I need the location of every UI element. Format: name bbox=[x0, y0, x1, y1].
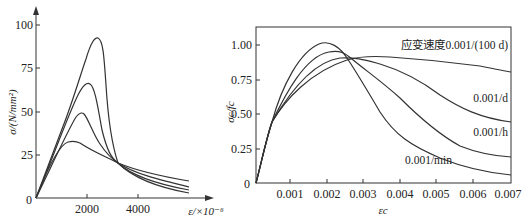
annotation-rate-100d: 应变速度0.001/(100 d) bbox=[401, 38, 508, 52]
right-x-tick: 0.001 bbox=[277, 187, 304, 201]
right-x-tick: 0.007 bbox=[495, 187, 522, 201]
right-x-tick: 0.005 bbox=[423, 187, 450, 201]
left-y-tick: 0 bbox=[26, 193, 32, 207]
annotation-rate-min: 0.001/min bbox=[405, 154, 452, 166]
annotation-rate-d: 0.001/d bbox=[473, 92, 508, 104]
left-x-axis-arrow-icon bbox=[205, 195, 214, 201]
right-x-tick: 0.002 bbox=[314, 187, 341, 201]
right-y-tick: 0.25 bbox=[231, 142, 252, 156]
right-y-axis-label: σc/fc bbox=[224, 101, 236, 122]
right-y-tick: 0 bbox=[244, 177, 250, 191]
left-y-axis-arrow-icon bbox=[33, 6, 39, 15]
left-y-tick: 100 bbox=[15, 18, 33, 32]
right-x-tick: 0.006 bbox=[460, 187, 487, 201]
right-y-tick: 0.75 bbox=[231, 73, 252, 87]
left-x-tick: 2000 bbox=[75, 202, 99, 216]
left-curve-4 bbox=[36, 141, 189, 198]
left-curve-1 bbox=[36, 38, 189, 198]
right-curve-rate-d bbox=[256, 58, 511, 183]
left-y-tick: 75 bbox=[21, 61, 33, 75]
left-x-axis-label: ε/×10⁻⁶ bbox=[188, 205, 224, 217]
right-x-tick: 0.003 bbox=[350, 187, 377, 201]
annotation-rate-h: 0.001/h bbox=[473, 126, 508, 138]
left-chart: 100 75 50 25 0 2000 4000 ε/×10⁻⁶ σ/(N/mm… bbox=[6, 6, 224, 217]
left-y-tick: 25 bbox=[21, 148, 33, 162]
left-y-tick: 50 bbox=[21, 105, 33, 119]
right-y-tick: 1.00 bbox=[231, 38, 252, 52]
figure: 100 75 50 25 0 2000 4000 ε/×10⁻⁶ σ/(N/mm… bbox=[0, 0, 523, 223]
right-curve-rate-100d bbox=[256, 56, 511, 183]
right-x-tick: 0.004 bbox=[387, 187, 414, 201]
right-chart: 1.00 0.75 0.50 0.25 0 0.001 0.002 0.003 … bbox=[224, 27, 522, 216]
left-y-axis-label: σ/(N/mm²) bbox=[6, 89, 19, 135]
left-x-tick: 4000 bbox=[126, 202, 150, 216]
right-x-axis-label: εc bbox=[378, 204, 387, 216]
